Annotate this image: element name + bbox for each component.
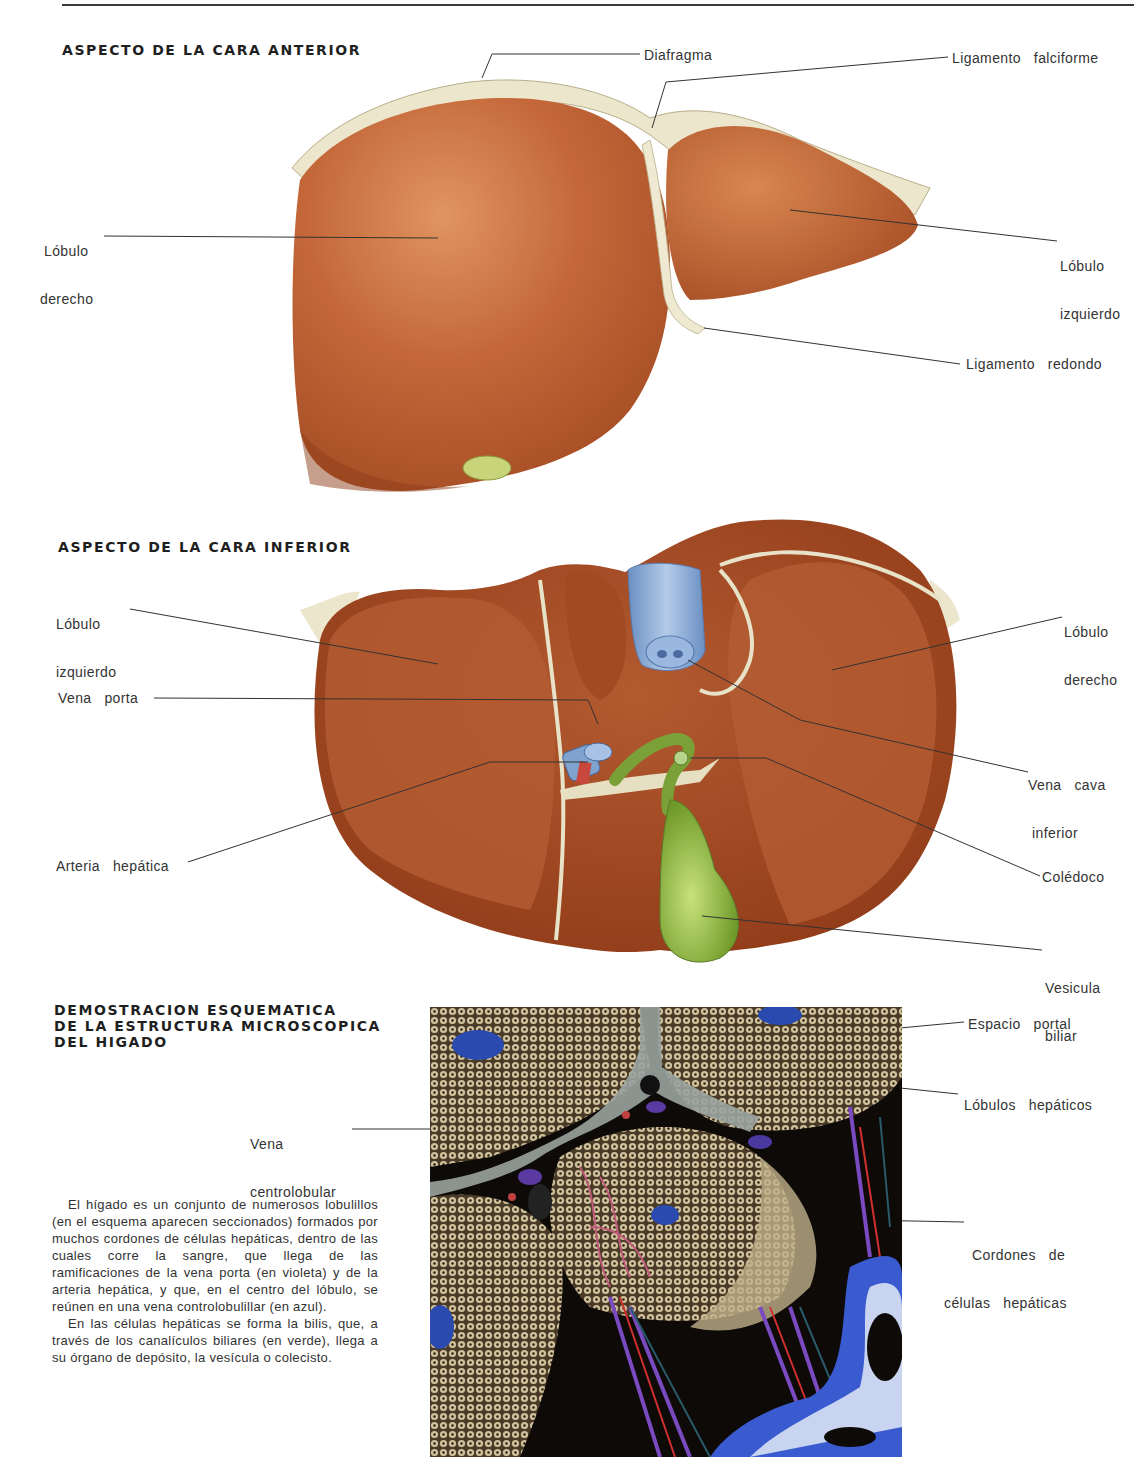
label-ligamento-falciforme: Ligamento falciforme: [952, 50, 1099, 66]
section-title-inferior: ASPECTO DE LA CARA INFERIOR: [58, 539, 352, 555]
label-arteria-hepatica: Arteria hepática: [56, 858, 169, 874]
label-lobulos-hepaticos: Lóbulos hepáticos: [964, 1097, 1092, 1113]
label-vena-porta: Vena porta: [58, 690, 138, 706]
label-coledoco: Colédoco: [1042, 869, 1104, 885]
section-title-microscopic: DEMOSTRACION ESQUEMATICA DE LA ESTRUCTUR…: [54, 1002, 381, 1050]
liver-anterior: [292, 80, 930, 492]
label-diafragma: Diafragma: [644, 47, 712, 63]
label-cordones-celulas-hepaticas: Cordones de células hepáticas: [944, 1215, 1067, 1327]
description-paragraph-2: En las células hepáticas se forma la bil…: [52, 1315, 378, 1366]
label-vesicula-biliar: Vesicula biliar: [1045, 948, 1100, 1060]
microscopic-structure-illustration: [430, 1007, 902, 1457]
description-paragraph-1: El hígado es un conjunto de numerosos lo…: [52, 1196, 378, 1315]
label-lobulo-derecho-inferior: Lóbulo derecho: [1064, 592, 1117, 704]
label-lobulo-derecho-anterior: Lóbulo derecho: [42, 211, 93, 323]
liver-inferior: [300, 519, 960, 962]
description-text: El hígado es un conjunto de numerosos lo…: [52, 1196, 378, 1366]
label-ligamento-redondo: Ligamento redondo: [966, 356, 1102, 372]
label-espacio-portal: Espacio portal: [968, 1016, 1071, 1032]
label-lobulo-izquierdo-anterior: Lóbulo izquierdo: [1060, 226, 1120, 338]
label-lobulo-izquierdo-inferior: Lóbulo izquierdo: [56, 584, 116, 696]
label-vena-cava-inferior: Vena cava inferior: [1028, 745, 1106, 857]
